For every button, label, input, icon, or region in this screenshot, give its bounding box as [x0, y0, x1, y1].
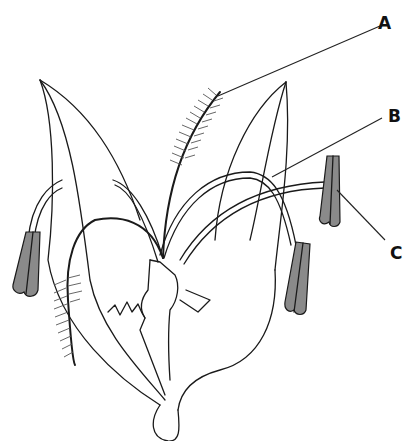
ovary — [108, 260, 210, 395]
floret-base — [153, 405, 179, 441]
anther-left — [13, 232, 40, 296]
label-c: C — [390, 245, 402, 262]
anther-right-upper — [320, 156, 340, 227]
label-b: B — [388, 108, 401, 125]
leader-line-c — [337, 190, 385, 240]
leader-line-a — [218, 26, 380, 96]
label-a: A — [378, 15, 391, 32]
anther-right-lower — [285, 242, 310, 315]
filament-left — [28, 180, 163, 262]
floret-diagram — [0, 0, 408, 441]
left-bract — [40, 80, 165, 405]
stigma-upper — [163, 88, 223, 258]
